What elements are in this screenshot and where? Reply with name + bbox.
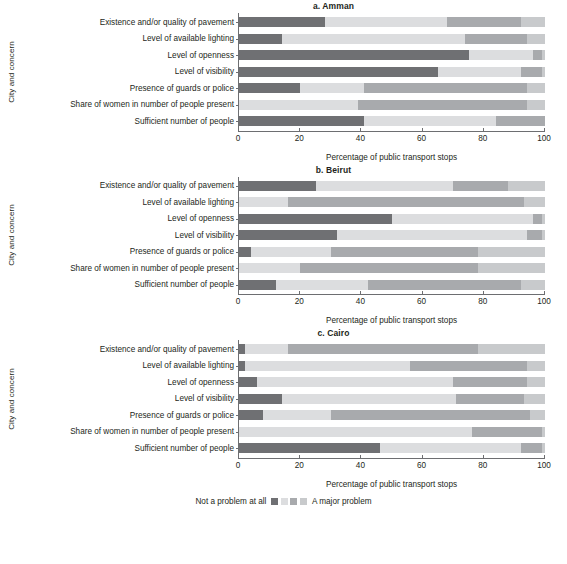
x-axis-tick <box>238 128 239 131</box>
stacked-bar[interactable] <box>239 427 545 437</box>
bar-segment-2 <box>245 361 410 371</box>
bars-a <box>239 13 545 131</box>
bar-segment-1 <box>239 116 364 126</box>
stacked-bar[interactable] <box>239 280 545 290</box>
bar-slot <box>239 407 545 424</box>
category-label: Sufficient number of people <box>22 440 238 457</box>
x-axis-c: 020406080100 <box>238 458 545 478</box>
bar-segment-3 <box>496 116 545 126</box>
x-axis-line <box>238 131 545 132</box>
bar-segment-4 <box>524 197 545 207</box>
x-axis-tick-label: 60 <box>417 297 426 306</box>
bar-slot <box>239 178 545 195</box>
stacked-bar[interactable] <box>239 181 545 191</box>
y-axis-title-text: City and concern <box>7 368 16 430</box>
category-labels-b: Existence and/or quality of pavementLeve… <box>22 177 238 295</box>
x-axis-tick-label: 20 <box>295 134 304 143</box>
stacked-bar[interactable] <box>239 263 545 273</box>
bar-segment-2 <box>276 280 368 290</box>
panel-c: c. CairoCity and concernExistence and/or… <box>0 327 567 491</box>
stacked-bar[interactable] <box>239 116 545 126</box>
x-axis-tick-label: 80 <box>478 461 487 470</box>
panels-container: a. AmmanCity and concernExistence and/or… <box>0 0 567 491</box>
bar-slot <box>239 194 545 211</box>
bar-segment-2 <box>239 263 300 273</box>
bar-segment-3 <box>447 17 520 27</box>
x-axis-title-c: Percentage of public transport stops <box>238 478 545 491</box>
legend-label-right: A major problem <box>312 497 372 506</box>
bar-slot <box>239 211 545 228</box>
bar-slot <box>239 97 545 114</box>
stacked-bar[interactable] <box>239 361 545 371</box>
bar-segment-2 <box>316 181 454 191</box>
stacked-bar[interactable] <box>239 34 545 44</box>
x-axis-tick <box>299 291 300 294</box>
bar-segment-4 <box>527 83 545 93</box>
bar-slot <box>239 47 545 64</box>
bar-slot <box>239 64 545 81</box>
stacked-bar[interactable] <box>239 394 545 404</box>
legend-swatch-4 <box>300 498 307 505</box>
x-axis-tick <box>483 128 484 131</box>
category-label: Level of visibility <box>22 64 238 81</box>
stacked-bar[interactable] <box>239 50 545 60</box>
category-labels-a: Existence and/or quality of pavementLeve… <box>22 13 238 131</box>
bar-segment-1 <box>239 34 282 44</box>
bar-segment-1 <box>239 214 392 224</box>
plot-area-c <box>238 340 545 458</box>
panel-title-c: c. Cairo <box>0 327 567 340</box>
stacked-bar[interactable] <box>239 214 545 224</box>
x-axis-title-b: Percentage of public transport stops <box>238 314 545 327</box>
bar-segment-3 <box>364 83 526 93</box>
stacked-bar[interactable] <box>239 410 545 420</box>
y-axis-title-a: City and concern <box>0 13 22 131</box>
x-axis-tick-label: 60 <box>417 461 426 470</box>
stacked-bar[interactable] <box>239 377 545 387</box>
category-label: Share of women in number of people prese… <box>22 97 238 114</box>
bar-segment-1 <box>239 230 337 240</box>
bar-segment-2 <box>257 377 453 387</box>
category-label: Share of women in number of people prese… <box>22 260 238 277</box>
bar-segment-3 <box>533 214 542 224</box>
bar-segment-4 <box>524 394 545 404</box>
bar-segment-3 <box>410 361 526 371</box>
stacked-bar[interactable] <box>239 67 545 77</box>
category-label: Level of visibility <box>22 227 238 244</box>
stacked-bar[interactable] <box>239 83 545 93</box>
category-label: Existence and/or quality of pavement <box>22 341 238 358</box>
stacked-bar[interactable] <box>239 197 545 207</box>
x-axis-tick <box>360 291 361 294</box>
category-label: Level of visibility <box>22 391 238 408</box>
x-axis-tick <box>299 455 300 458</box>
stacked-bar[interactable] <box>239 100 545 110</box>
bar-segment-2 <box>337 230 527 240</box>
bar-slot <box>239 113 545 130</box>
x-axis-tick-label: 60 <box>417 134 426 143</box>
stacked-bar[interactable] <box>239 443 545 453</box>
bar-segment-4 <box>542 230 545 240</box>
bar-segment-4 <box>530 410 545 420</box>
stacked-bar[interactable] <box>239 230 545 240</box>
plot-row-b: City and concernExistence and/or quality… <box>0 177 567 295</box>
stacked-bar[interactable] <box>239 17 545 27</box>
category-label: Share of women in number of people prese… <box>22 424 238 441</box>
stacked-bar[interactable] <box>239 247 545 257</box>
bar-segment-1 <box>239 17 325 27</box>
stacked-bar[interactable] <box>239 344 545 354</box>
x-axis-tick-label: 40 <box>356 134 365 143</box>
legend: Not a problem at allA major problem <box>0 497 567 506</box>
panel-title-b: b. Beirut <box>0 164 567 177</box>
category-label: Level of openness <box>22 374 238 391</box>
bar-segment-1 <box>239 377 257 387</box>
bar-segment-3 <box>300 263 477 273</box>
x-axis-tick <box>238 291 239 294</box>
x-axis-tick <box>483 455 484 458</box>
x-axis-tick <box>360 455 361 458</box>
bar-slot <box>239 277 545 294</box>
x-axis-tick-label: 80 <box>478 134 487 143</box>
bar-slot <box>239 341 545 358</box>
category-label: Existence and/or quality of pavement <box>22 14 238 31</box>
bar-segment-2 <box>325 17 447 27</box>
bar-slot <box>239 80 545 97</box>
bar-segment-1 <box>239 50 469 60</box>
